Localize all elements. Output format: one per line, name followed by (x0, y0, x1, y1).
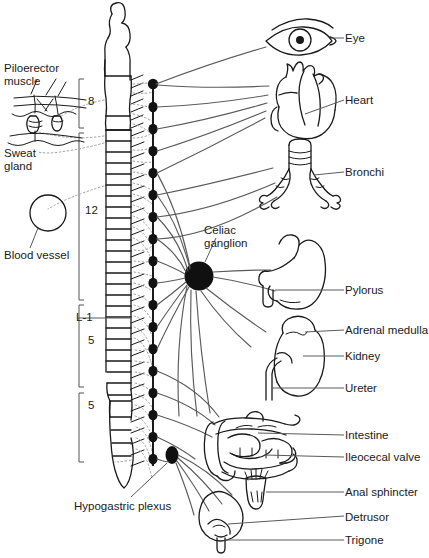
anal-sphincter-illustration (245, 469, 268, 509)
spinal-cord-illustration (105, 3, 145, 488)
label-celiac-ganglion: Celiac ganglion (204, 224, 247, 250)
hypogastric-plexus-node (131, 446, 179, 497)
label-blood-vessel: Blood vessel (4, 249, 69, 262)
label-hypogastric-plexus: Hypogastric plexus (74, 500, 171, 513)
label-intestine: Intestine (345, 429, 388, 442)
label-pylorus: Pylorus (345, 284, 383, 297)
intestine-illustration (204, 412, 300, 481)
segment-count-8: 8 (88, 95, 94, 107)
label-heart: Heart (345, 94, 373, 107)
label-adrenal-medulla: Adrenal medulla (345, 324, 428, 337)
label-piloerector-muscle: Piloerector muscle (4, 62, 59, 88)
label-sweat-gland: Sweat gland (4, 147, 36, 173)
segment-count-5-lumbar: 5 (88, 334, 94, 346)
skin-section-illustration (8, 79, 86, 146)
segment-count-5-sacral: 5 (88, 399, 94, 411)
label-trigone: Trigone (345, 534, 384, 547)
segment-brackets (78, 79, 131, 462)
sympathetic-chain-illustration (148, 79, 158, 466)
label-bronchi: Bronchi (345, 166, 384, 179)
label-kidney: Kidney (345, 350, 380, 363)
kidney-illustration (266, 316, 324, 400)
label-anal-sphincter: Anal sphincter (345, 486, 418, 499)
label-ureter: Ureter (345, 382, 377, 395)
diagram-canvas: .k{fill:none;stroke:#1a1a1a;stroke-width… (0, 0, 429, 558)
segment-count-12: 12 (85, 204, 98, 216)
label-detrusor: Detrusor (345, 511, 389, 524)
blood-vessel-illustration (30, 195, 66, 248)
bladder-illustration (199, 491, 243, 553)
label-leader-lines (224, 38, 344, 540)
sympathetic-nervous-system-diagram: .k{fill:none;stroke:#1a1a1a;stroke-width… (0, 0, 429, 558)
stomach-illustration (259, 235, 326, 309)
label-ileocecal-valve: Ileocecal valve (345, 451, 420, 464)
eye-illustration (266, 19, 336, 55)
bronchi-illustration (259, 139, 340, 209)
heart-illustration (271, 62, 336, 139)
label-eye: Eye (345, 32, 365, 45)
segment-marker-l1: L-1 (76, 311, 93, 323)
gray-rami-communicantes (38, 81, 154, 479)
